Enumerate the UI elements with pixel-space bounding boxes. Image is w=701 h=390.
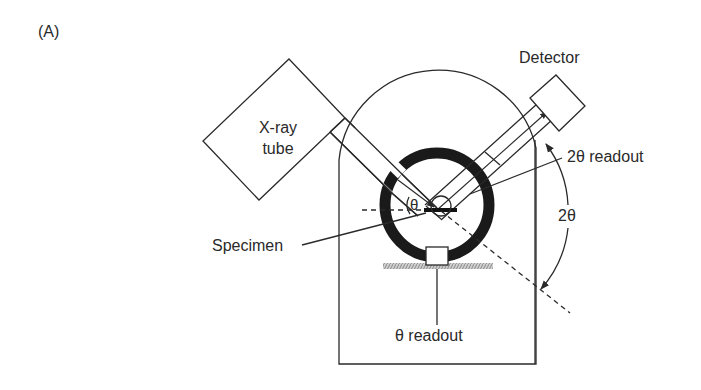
stage-block [426, 247, 448, 265]
detector [530, 75, 585, 131]
diffractometer-diagram [0, 0, 701, 390]
two-theta-label: 2θ [558, 208, 576, 224]
theta-label: θ [410, 197, 418, 212]
xray-tube-label-line2: tube [248, 141, 308, 157]
xray-tube-label-line1: X-ray [248, 120, 308, 136]
specimen-label: Specimen [212, 238, 283, 254]
panel-label: (A) [38, 24, 59, 40]
detector-label: Detector [519, 50, 579, 66]
theta-readout-label: θ readout [395, 328, 463, 344]
two-theta-readout-label: 2θ readout [567, 149, 644, 165]
